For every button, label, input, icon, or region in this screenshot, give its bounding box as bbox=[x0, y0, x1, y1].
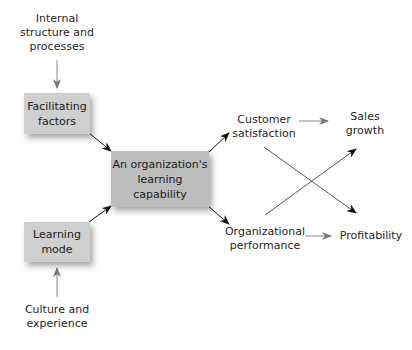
label-line: growth bbox=[336, 124, 394, 138]
arrow-orgperf-to-sales bbox=[265, 149, 356, 215]
label-line: Learning bbox=[33, 227, 81, 242]
label-line: experience bbox=[10, 317, 104, 331]
label-line: mode bbox=[33, 242, 81, 257]
label-line: Profitability bbox=[334, 229, 408, 243]
label-line: Culture and bbox=[10, 303, 104, 317]
label-line: Internal bbox=[10, 12, 104, 26]
arrow-facilitating-to-capability bbox=[89, 133, 111, 151]
node-learning-capability: An organization's learning capability bbox=[111, 151, 209, 207]
node-profitability: Profitability bbox=[334, 229, 408, 243]
node-culture-experience: Culture and experience bbox=[10, 303, 104, 331]
arrow-learning-mode-to-capability bbox=[89, 206, 111, 222]
node-customer-satisfaction: Customer satisfaction bbox=[226, 113, 302, 141]
label-line: Facilitating bbox=[27, 99, 87, 114]
label-line: processes bbox=[10, 40, 104, 54]
label-line: Customer bbox=[226, 113, 302, 127]
arrow-customer-to-profitability bbox=[264, 147, 356, 213]
label-line: Organizational bbox=[222, 225, 308, 239]
node-sales-growth: Sales growth bbox=[336, 110, 394, 138]
label-line: learning bbox=[112, 172, 207, 187]
node-organizational-performance: Organizational performance bbox=[222, 225, 308, 253]
node-internal-structure: Internal structure and processes bbox=[10, 12, 104, 54]
label-line: structure and bbox=[10, 26, 104, 40]
label-line: factors bbox=[27, 114, 87, 129]
node-learning-mode: Learning mode bbox=[24, 222, 90, 262]
node-facilitating-factors: Facilitating factors bbox=[24, 93, 90, 134]
label-line: satisfaction bbox=[226, 127, 302, 141]
arrow-capability-to-orgperf bbox=[208, 206, 229, 224]
label-line: capability bbox=[112, 187, 207, 202]
label-line: Sales bbox=[336, 110, 394, 124]
label-line: An organization's bbox=[112, 157, 207, 172]
label-line: performance bbox=[222, 239, 308, 253]
